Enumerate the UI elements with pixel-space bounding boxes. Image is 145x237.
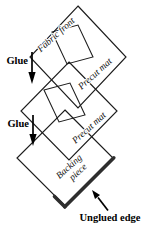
glue-annotation-1: Glue <box>6 52 35 84</box>
fabric-front-layer: Fabric front Precut mat <box>30 6 126 108</box>
precut-mat-2-window <box>44 83 85 122</box>
backing-piece-label: Backing piece <box>54 152 91 188</box>
unglued-edge-arrow-shaft <box>98 198 108 211</box>
glue-label-1: Glue <box>6 55 28 66</box>
precut-mat-2-layer: Precut mat <box>21 62 117 160</box>
unglued-edge-corner-wrap <box>55 197 65 207</box>
fabric-front-outline <box>30 6 126 108</box>
fabric-front-label: Fabric front <box>35 15 77 54</box>
glue-label-2: Glue <box>7 118 29 129</box>
layered-mat-assembly-diagram: Backing piece Precut mat Fabric front Pr… <box>0 0 145 237</box>
unglued-edge-label: Unglued edge <box>80 212 141 223</box>
unglued-edge-annotation: Unglued edge <box>80 190 141 223</box>
diagram-canvas: Backing piece Precut mat Fabric front Pr… <box>0 0 145 237</box>
glue-annotation-2: Glue <box>7 115 36 146</box>
glue-arrow-1-head <box>28 72 35 84</box>
precut-mat-2-outline <box>21 62 117 160</box>
